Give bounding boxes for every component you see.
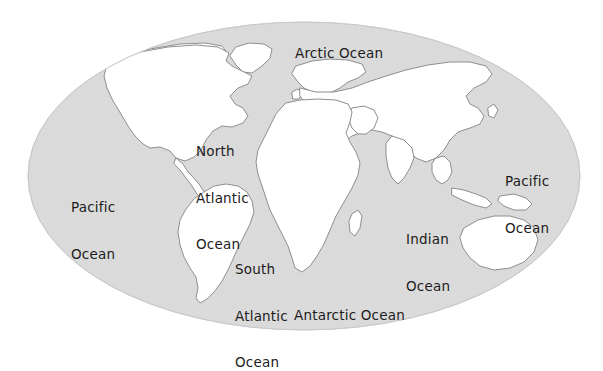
ocean-label-south-atlantic-line3: Ocean [235,355,288,371]
